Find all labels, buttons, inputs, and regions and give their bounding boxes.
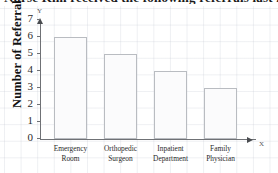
x-axis-arrow-icon: [247, 137, 253, 143]
x-axis-category-line: Emergency: [43, 144, 99, 154]
x-axis-category-line: Physician: [193, 154, 249, 164]
bar: [204, 88, 237, 139]
x-axis-category-label: InpatientDepartment: [143, 144, 199, 163]
y-axis-tick-label: 1: [28, 114, 34, 127]
x-axis-line: X: [40, 139, 256, 140]
y-axis-tick-label: 4: [28, 63, 34, 76]
y-axis-cap-label: Y: [37, 7, 42, 15]
y-axis-tick: 3: [37, 87, 41, 88]
y-axis-tick: 4: [37, 70, 41, 71]
x-axis-category-line: Room: [43, 154, 99, 164]
x-axis-category-line: Inpatient: [143, 144, 199, 154]
x-axis-category-line: Family: [193, 144, 249, 154]
y-axis-tick-label: 2: [28, 97, 34, 110]
y-axis-tick-label: 7: [28, 12, 34, 25]
x-axis-cap-label: X: [259, 140, 264, 148]
y-axis-tick-label: 0: [28, 131, 34, 144]
x-axis-category-label: FamilyPhysician: [193, 144, 249, 163]
plot-area: Y X 01234567 EmergencyRoomOrthopedicSurg…: [40, 14, 265, 140]
y-axis-tick: 2: [37, 104, 41, 105]
bar: [54, 37, 87, 139]
y-axis-tick: 0: [37, 138, 41, 139]
chart-title-cropped: Nurse Kim received the following referra…: [0, 0, 278, 4]
x-axis-category-label: OrthopedicSurgeon: [93, 144, 149, 163]
y-axis-tick-label: 3: [28, 80, 34, 93]
y-axis-tick: 1: [37, 121, 41, 122]
y-axis-tick: 5: [37, 53, 41, 54]
y-axis-title: Number of Referrals: [10, 0, 25, 112]
x-axis-category-line: Surgeon: [93, 154, 149, 164]
y-axis-tick: 6: [37, 36, 41, 37]
bar: [154, 71, 187, 139]
chart-page: Nurse Kim received the following referra…: [0, 0, 278, 173]
bar: [104, 54, 137, 139]
chart-title-text: Nurse Kim received the following referra…: [4, 0, 278, 4]
y-axis-tick: 7: [37, 19, 41, 20]
y-axis-tick-label: 5: [28, 46, 34, 59]
x-axis-category-line: Orthopedic: [93, 144, 149, 154]
y-axis-tick-label: 6: [28, 29, 34, 42]
x-axis-category-line: Department: [143, 154, 199, 164]
x-axis-category-label: EmergencyRoom: [43, 144, 99, 163]
